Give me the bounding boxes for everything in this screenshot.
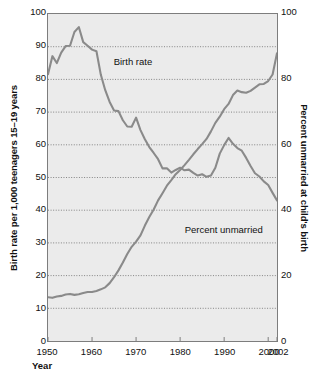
y-tick-left-40: 40 [6, 203, 46, 214]
plot-svg [48, 14, 277, 341]
series-line-1 [48, 27, 277, 200]
y-axis-right-title: Percent unmarried at child's birth [299, 78, 310, 278]
series-line-2 [48, 53, 277, 298]
y-tick-left-80: 80 [6, 72, 46, 83]
y-tick-left-100: 100 [6, 6, 46, 17]
x-tick-1990: 1990 [205, 346, 245, 357]
y-tick-right-0: 0 [281, 335, 318, 346]
y-tick-left-10: 10 [6, 302, 46, 313]
plot-area [47, 13, 278, 342]
x-tick-1980: 1980 [160, 346, 200, 357]
x-tick-2002: 2002 [258, 346, 298, 357]
y-tick-right-80: 80 [281, 72, 318, 83]
x-tick-1960: 1960 [71, 346, 111, 357]
y-tick-left-30: 30 [6, 236, 46, 247]
y-tick-right-20: 20 [281, 269, 318, 280]
x-tick-1950: 1950 [27, 346, 67, 357]
y-tick-left-70: 70 [6, 105, 46, 116]
y-tick-left-20: 20 [6, 269, 46, 280]
y-tick-left-0: 0 [6, 335, 46, 346]
x-axis-title: Year [32, 360, 52, 371]
chart-figure: Birth rate per 1,000 teenagers 15–19 yea… [0, 0, 318, 380]
series-label-2: Percent unmarried [185, 224, 263, 235]
y-tick-right-60: 60 [281, 138, 318, 149]
x-tick-1970: 1970 [116, 346, 156, 357]
series-label-1: Birth rate [114, 56, 153, 67]
y-tick-left-50: 50 [6, 171, 46, 182]
y-tick-left-60: 60 [6, 138, 46, 149]
y-tick-left-90: 90 [6, 39, 46, 50]
y-tick-right-40: 40 [281, 203, 318, 214]
y-tick-right-100: 100 [281, 6, 318, 17]
